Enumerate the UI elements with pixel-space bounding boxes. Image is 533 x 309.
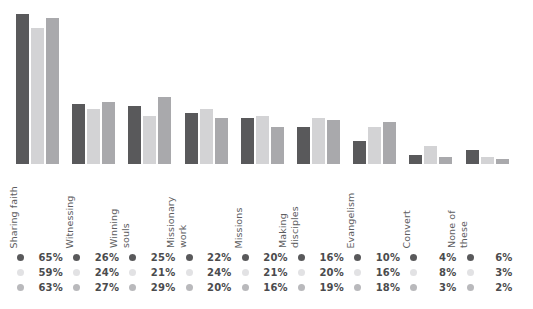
legend-series-dot-icon (17, 254, 24, 261)
legend-series-dot-icon (73, 254, 80, 261)
legend-row: 63% (17, 280, 79, 295)
legend-row: 21% (129, 265, 191, 280)
legend-series-dot-icon (17, 269, 24, 276)
legend-value: 59% (29, 267, 63, 278)
bar-group (466, 4, 509, 164)
legend-value: 29% (141, 282, 175, 293)
bar (102, 102, 115, 164)
legend-value: 6% (479, 252, 513, 263)
legend-column: 16%20%19% (298, 250, 360, 295)
legend-row: 24% (186, 265, 248, 280)
bar (271, 127, 284, 164)
legend-value: 22% (198, 252, 232, 263)
legend-value: 3% (422, 282, 456, 293)
legend-row: 21% (242, 265, 304, 280)
category-label-line: Evangelism (345, 192, 356, 248)
category-label: Missions (232, 207, 244, 248)
category-label-line: Sharing faith (8, 186, 19, 248)
bar (87, 109, 100, 164)
legend-series-dot-icon (186, 284, 193, 291)
legend-row: 20% (298, 265, 360, 280)
legend-row: 19% (298, 280, 360, 295)
legend-value: 20% (254, 252, 288, 263)
legend-series-dot-icon (298, 254, 305, 261)
category-label: Evangelism (345, 192, 357, 248)
bar (353, 141, 366, 164)
bar (327, 120, 340, 164)
legend-row: 4% (410, 250, 472, 265)
legend-series-dot-icon (410, 284, 417, 291)
legend-row: 20% (242, 250, 304, 265)
legend-value: 27% (85, 282, 119, 293)
legend-series-dot-icon (410, 254, 417, 261)
legend-series-dot-icon (129, 254, 136, 261)
legend-series-dot-icon (129, 269, 136, 276)
category-label: None ofthese (446, 210, 469, 248)
legend-column: 4%8%3% (410, 250, 472, 295)
legend-series-dot-icon (242, 254, 249, 261)
legend-value: 25% (141, 252, 175, 263)
legend-value: 21% (254, 267, 288, 278)
legend-series-dot-icon (467, 269, 474, 276)
bar (409, 155, 422, 164)
bar (312, 118, 325, 164)
legend-row: 16% (242, 280, 304, 295)
category-label: Makingdisciples (277, 206, 300, 248)
legend-row: 16% (298, 250, 360, 265)
legend-series-dot-icon (17, 284, 24, 291)
legend-series-dot-icon (242, 269, 249, 276)
category-label: Witnessing (64, 195, 76, 248)
legend-column: 25%21%29% (129, 250, 191, 295)
legend-value: 24% (85, 267, 119, 278)
legend-row: 3% (467, 265, 529, 280)
legend-value-table: 65%59%63%26%24%27%25%21%29%22%24%20%20%2… (0, 250, 533, 308)
legend-row: 29% (129, 280, 191, 295)
bar (424, 146, 437, 164)
bar (31, 28, 44, 164)
legend-value: 19% (310, 282, 344, 293)
legend-series-dot-icon (298, 269, 305, 276)
bar (383, 122, 396, 164)
legend-series-dot-icon (354, 284, 361, 291)
legend-series-dot-icon (242, 284, 249, 291)
legend-row: 59% (17, 265, 79, 280)
plot-area (0, 0, 533, 166)
legend-column: 65%59%63% (17, 250, 79, 295)
legend-value: 65% (29, 252, 63, 263)
legend-value: 21% (141, 267, 175, 278)
bar (496, 159, 509, 164)
category-label-line: Making (277, 213, 288, 248)
bar (16, 14, 29, 164)
grouped-bar-chart: Sharing faithWitnessingWinningsoulsMissi… (0, 0, 533, 309)
legend-value: 16% (366, 267, 400, 278)
bar (158, 97, 171, 164)
legend-column: 22%24%20% (186, 250, 248, 295)
legend-row: 22% (186, 250, 248, 265)
category-label-line: Witnessing (64, 195, 75, 248)
legend-value: 24% (198, 267, 232, 278)
legend-row: 26% (73, 250, 135, 265)
legend-column: 10%16%18% (354, 250, 416, 295)
legend-value: 4% (422, 252, 456, 263)
bar (466, 150, 479, 164)
category-axis-labels: Sharing faithWitnessingWinningsoulsMissi… (0, 166, 533, 248)
bar-group (241, 4, 284, 164)
category-label-line: these (457, 210, 469, 248)
legend-row: 16% (354, 265, 416, 280)
category-label-line: Convert (401, 210, 412, 248)
legend-series-dot-icon (354, 269, 361, 276)
legend-value: 63% (29, 282, 63, 293)
legend-row: 27% (73, 280, 135, 295)
legend-value: 8% (422, 267, 456, 278)
legend-series-dot-icon (129, 284, 136, 291)
bar (185, 113, 198, 164)
category-label-line: None of (446, 210, 457, 248)
legend-row: 3% (410, 280, 472, 295)
bar-group (353, 4, 396, 164)
legend-row: 65% (17, 250, 79, 265)
legend-row: 18% (354, 280, 416, 295)
legend-series-dot-icon (467, 254, 474, 261)
legend-series-dot-icon (410, 269, 417, 276)
legend-value: 10% (366, 252, 400, 263)
bar (143, 116, 156, 165)
